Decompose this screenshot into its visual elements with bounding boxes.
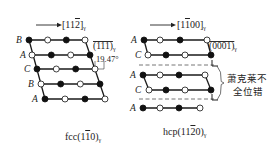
fcc-direction-label: [112]γ xyxy=(62,19,86,31)
layer-label: A xyxy=(129,70,136,80)
fcc-plane-label: (111)γ xyxy=(93,41,116,52)
layer-label: A xyxy=(129,103,136,113)
layer-label: B xyxy=(28,79,34,89)
shockley-partial-label-line2: 全位错 xyxy=(233,86,263,97)
fcc-row-2: A xyxy=(19,50,93,60)
layer-label: C xyxy=(135,50,142,60)
layer-label: B xyxy=(16,35,22,45)
angle-label: 19.47° xyxy=(96,54,119,64)
layer-label: A xyxy=(19,50,26,60)
fcc-caption: fcc(110)γ xyxy=(65,131,102,143)
shockley-partial-label-line1: 萧克莱不 xyxy=(227,73,267,84)
layer-label: A xyxy=(130,35,137,45)
hcp-row-1: A xyxy=(130,35,210,45)
fcc-row-5: A xyxy=(31,94,108,104)
hcp-direction-label: [1100]γ xyxy=(177,19,206,31)
hcp-row-3: A xyxy=(129,70,208,80)
fcc-row-3: C xyxy=(24,64,98,74)
crystal-structure-diagram: [112]γ (111)γ 19.47° B A xyxy=(0,0,276,153)
fcc-lattice: [112]γ (111)γ 19.47° B A xyxy=(16,19,119,143)
hcp-plane-label: (0001)γ xyxy=(209,41,237,52)
hcp-lattice: [1100]γ (0001)γ 萧克莱不 全位错 A xyxy=(129,19,267,138)
hcp-row-5: A xyxy=(129,103,203,113)
fcc-row-4: B xyxy=(28,79,103,89)
hcp-row-4: C xyxy=(135,85,214,95)
fcc-row-1: B xyxy=(16,35,88,45)
layer-label: C xyxy=(24,64,31,74)
layer-label: C xyxy=(135,85,142,95)
hcp-caption: hcp(1120)γ xyxy=(163,126,207,138)
brace xyxy=(217,66,224,100)
layer-label: A xyxy=(31,94,38,104)
